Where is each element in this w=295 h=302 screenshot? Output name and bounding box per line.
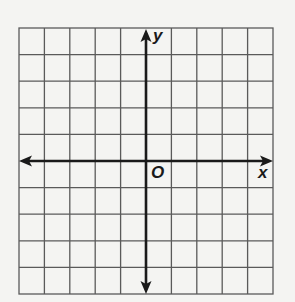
origin-label: O xyxy=(151,163,164,183)
x-axis-label: x xyxy=(258,163,267,183)
coordinate-plane xyxy=(0,0,295,302)
y-axis-label: y xyxy=(153,26,162,46)
